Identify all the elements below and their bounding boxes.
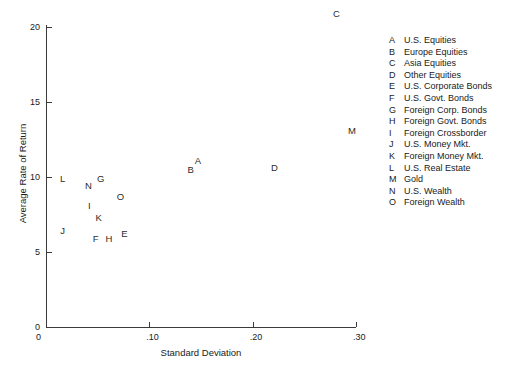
x-axis-title: Standard Deviation [46, 347, 356, 358]
data-point-a: A [195, 156, 201, 166]
legend-item-key: O [389, 197, 404, 209]
legend-item-label: U.S. Money Mkt. [404, 139, 504, 151]
x-tick-label: .20 [250, 332, 263, 342]
legend-item-label: U.S. Wealth [404, 186, 504, 198]
legend-item-key: E [389, 81, 404, 93]
legend-item: LU.S. Real Estate [389, 163, 504, 175]
legend-item: OForeign Wealth [389, 197, 504, 209]
x-tick-label: .30 [353, 332, 366, 342]
data-point-g: G [97, 174, 104, 184]
legend-item-key: J [389, 139, 404, 151]
legend-item-key: L [389, 163, 404, 175]
legend-item: FU.S. Govt. Bonds [389, 93, 504, 105]
legend-item-label: Foreign Corp. Bonds [404, 105, 504, 117]
data-point-b: B [187, 165, 193, 175]
legend-item: JU.S. Money Mkt. [389, 139, 504, 151]
legend-item-label: Gold [404, 174, 504, 186]
x-tick-mark [253, 322, 254, 327]
legend-item-key: B [389, 47, 404, 59]
y-tick-mark [47, 102, 52, 103]
legend-item-key: F [389, 93, 404, 105]
legend-item: AU.S. Equities [389, 35, 504, 47]
y-tick-mark [47, 27, 52, 28]
legend-item: DOther Equities [389, 70, 504, 82]
y-axis-title: Average Rate of Return [17, 89, 28, 259]
legend-item-label: Foreign Crossborder [404, 128, 504, 140]
legend-item-key: N [389, 186, 404, 198]
legend-item: EU.S. Corporate Bonds [389, 81, 504, 93]
legend-item-key: H [389, 116, 404, 128]
legend-item-label: Europe Equities [404, 47, 504, 59]
y-tick-mark [47, 252, 52, 253]
legend-item-label: U.S. Corporate Bonds [404, 81, 504, 93]
data-point-j: J [60, 226, 65, 236]
data-point-e: E [121, 229, 127, 239]
legend-item-label: Asia Equities [404, 58, 504, 70]
legend-item-key: C [389, 58, 404, 70]
data-point-n: N [85, 181, 92, 191]
data-point-h: H [106, 234, 113, 244]
legend-item-label: Other Equities [404, 70, 504, 82]
legend-item-key: K [389, 151, 404, 163]
data-point-m: M [348, 126, 356, 136]
scatter-plot-figure: 0.10.20.30 05101520 ABCDEFGHIJKLMNO Stan… [0, 0, 506, 368]
y-tick-label: 0 [18, 322, 40, 332]
legend-item-label: Foreign Money Mkt. [404, 151, 504, 163]
legend-item-key: I [389, 128, 404, 140]
data-point-k: K [96, 213, 102, 223]
plot-area: 0.10.20.30 05101520 ABCDEFGHIJKLMNO Stan… [0, 0, 380, 368]
legend-item-key: D [389, 70, 404, 82]
x-tick-mark [149, 322, 150, 327]
data-point-c: C [333, 9, 340, 19]
data-point-l: L [60, 174, 65, 184]
legend-item: NU.S. Wealth [389, 186, 504, 198]
legend-item: BEurope Equities [389, 47, 504, 59]
x-axis-line [46, 327, 356, 328]
legend-item-key: A [389, 35, 404, 47]
data-point-f: F [93, 234, 99, 244]
y-tick-label: 20 [18, 22, 40, 32]
legend-item-label: Foreign Wealth [404, 197, 504, 209]
data-point-o: O [117, 192, 124, 202]
legend-item-label: U.S. Govt. Bonds [404, 93, 504, 105]
data-point-i: I [88, 201, 91, 211]
legend-item-key: M [389, 174, 404, 186]
legend-item: HForeign Govt. Bonds [389, 116, 504, 128]
legend-item: IForeign Crossborder [389, 128, 504, 140]
x-tick-label: 0 [36, 332, 41, 342]
legend-item-label: Foreign Govt. Bonds [404, 116, 504, 128]
data-point-d: D [271, 163, 278, 173]
legend-item-key: G [389, 105, 404, 117]
x-tick-label: .10 [146, 332, 159, 342]
legend-item: MGold [389, 174, 504, 186]
legend-item: CAsia Equities [389, 58, 504, 70]
x-tick-mark [356, 322, 357, 327]
y-tick-mark [47, 177, 52, 178]
legend-item-label: U.S. Equities [404, 35, 504, 47]
legend: AU.S. EquitiesBEurope EquitiesCAsia Equi… [389, 35, 504, 209]
legend-item: GForeign Corp. Bonds [389, 105, 504, 117]
legend-item-label: U.S. Real Estate [404, 163, 504, 175]
legend-item: KForeign Money Mkt. [389, 151, 504, 163]
